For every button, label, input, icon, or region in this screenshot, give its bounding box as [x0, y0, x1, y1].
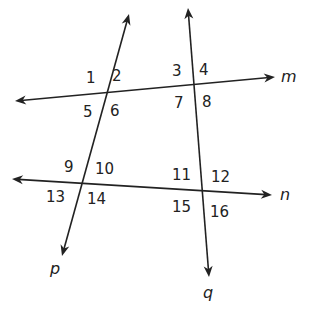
arrowheads-layer — [12, 8, 275, 277]
angle-label-8: 8 — [202, 93, 212, 111]
angle-label-5: 5 — [83, 103, 93, 121]
line-q — [188, 14, 208, 271]
angle-label-12: 12 — [211, 168, 230, 186]
angle-label-3: 3 — [172, 62, 182, 80]
line-label-q: q — [203, 283, 213, 302]
angle-label-10: 10 — [95, 160, 114, 178]
angle-label-1: 1 — [86, 69, 96, 87]
line-p — [64, 20, 128, 250]
angle-label-11: 11 — [172, 166, 191, 184]
line-label-m: m — [281, 67, 297, 86]
angle-label-2: 2 — [112, 67, 122, 85]
angle-label-6: 6 — [110, 102, 120, 120]
lines-layer — [18, 14, 269, 271]
angle-label-9: 9 — [64, 158, 74, 176]
angle-label-13: 13 — [46, 188, 65, 206]
angle-label-7: 7 — [174, 94, 184, 112]
angle-label-4: 4 — [199, 61, 209, 79]
line-label-p: p — [49, 259, 60, 278]
line-label-n: n — [280, 185, 290, 204]
angle-label-15: 15 — [172, 198, 191, 216]
parallel-lines-transversals-diagram: 12345678910111213141516 mnpq — [0, 0, 317, 322]
angle-label-14: 14 — [87, 190, 106, 208]
angle-label-16: 16 — [210, 203, 229, 221]
line-m — [21, 78, 269, 101]
